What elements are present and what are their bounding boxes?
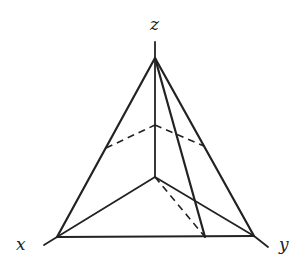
dashed-mid-left [106,125,155,148]
tetrahedron-diagram: z x y [0,0,304,269]
edge-z-y [155,58,254,236]
edge-origin-x [57,177,155,237]
x-axis-extension [44,237,57,245]
y-axis-extension [254,236,268,247]
edge-z-foot [155,58,205,237]
z-axis-label: z [149,14,160,34]
edge-origin-y [155,177,254,236]
y-axis-label: y [278,234,289,254]
edge-x-y [57,236,254,237]
x-axis-label: x [16,234,26,254]
